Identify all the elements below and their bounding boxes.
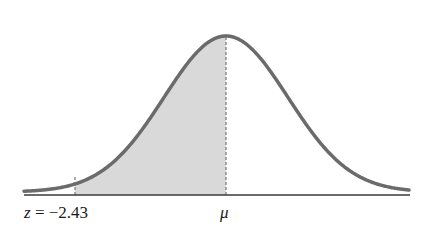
z-label: z = −2.43	[24, 203, 88, 223]
z-variable: z	[24, 203, 31, 222]
z-value: = −2.43	[31, 203, 88, 222]
mean-label: μ	[220, 203, 229, 223]
normal-curve-figure	[0, 0, 435, 235]
